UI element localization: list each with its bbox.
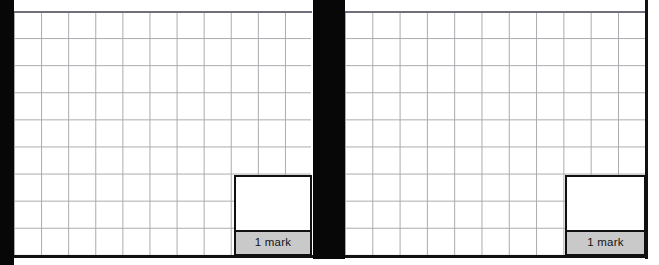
answer-write-area-right[interactable]	[567, 177, 644, 230]
scan-edge-gutter	[313, 0, 345, 265]
answer-box-right[interactable]	[565, 175, 646, 232]
scan-edge-left	[0, 0, 14, 265]
grid-top-rule-left	[14, 11, 312, 13]
scanned-exam-page: 1 mark 1 mark	[0, 0, 659, 265]
answer-write-area-left[interactable]	[236, 177, 310, 230]
mark-label-right: 1 mark	[565, 232, 646, 256]
page-bottom-margin	[14, 259, 659, 265]
grid-top-rule-right	[345, 11, 646, 13]
mark-label-left: 1 mark	[234, 232, 312, 256]
page-edge-rule-right	[645, 0, 648, 259]
answer-box-left[interactable]	[234, 175, 312, 232]
